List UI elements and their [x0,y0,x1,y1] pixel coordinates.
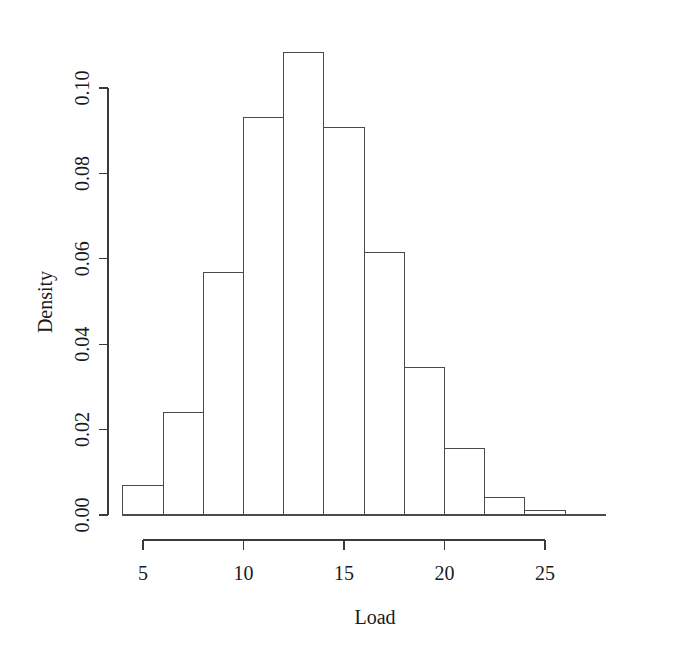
histogram-bar [485,497,525,515]
y-axis [99,88,108,515]
histogram-bar [364,252,404,515]
y-axis-title: Density [34,271,57,333]
y-tick-label: 0.02 [71,412,93,447]
y-tick-label: 0.00 [71,498,93,533]
histogram-bar [445,449,485,515]
y-tick-label: 0.04 [71,327,93,362]
histogram-bar [324,127,364,515]
x-axis [143,540,545,550]
x-axis-title: Load [354,606,395,628]
histogram-bar [203,272,243,515]
histogram-figure: 0.000.020.040.060.080.10 510152025 Densi… [0,0,674,656]
y-tick-label: 0.08 [71,156,93,191]
y-tick-label: 0.06 [71,241,93,276]
histogram-bar [163,413,203,515]
x-tick-label: 15 [334,562,354,584]
x-tick-label: 20 [435,562,455,584]
x-tick-label: 25 [535,562,555,584]
histogram-bar [284,53,324,515]
x-tick-label: 10 [234,562,254,584]
y-tick-label: 0.10 [71,71,93,106]
x-tick-label: 5 [138,562,148,584]
histogram-bar [123,485,163,515]
histogram-bar [404,368,444,515]
x-tick-labels: 510152025 [138,562,555,584]
y-tick-labels: 0.000.020.040.060.080.10 [71,71,93,533]
histogram-bar [244,118,284,515]
histogram-bar [525,511,565,515]
histogram-bars [123,53,605,515]
histogram-plot: 0.000.020.040.060.080.10 510152025 Densi… [0,0,674,656]
